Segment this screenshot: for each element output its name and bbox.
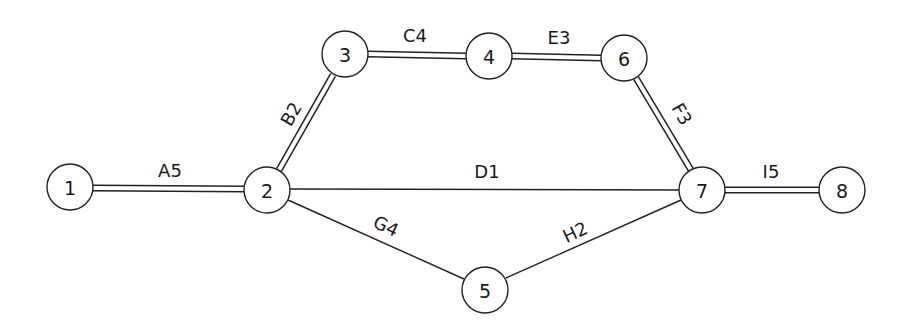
node-1: 1 [47,164,93,210]
edge-label-c: C4 [403,25,427,46]
edge-a [93,188,244,189]
edge-label-a: A5 [158,160,182,181]
node-7: 7 [679,167,725,213]
node-label-5: 5 [479,280,491,302]
node-6: 6 [601,35,647,81]
node-label-6: 6 [618,48,630,70]
edge-c [368,54,466,56]
node-label-4: 4 [483,46,495,68]
edge-label-f: F3 [667,99,696,128]
node-4: 4 [466,33,512,79]
node-2: 2 [244,167,290,213]
node-8: 8 [819,167,865,213]
network-diagram: A5 B2 C4 E3 F3 D1 G4 H2 I5 1 2 3 4 5 6 7… [0,0,909,327]
edge-label-g: G4 [370,211,402,241]
node-label-1: 1 [64,177,76,199]
edge-e [512,56,601,58]
node-label-7: 7 [696,180,708,202]
edge-label-i: I5 [763,161,780,182]
node-label-8: 8 [836,180,848,202]
edge-g [288,200,464,279]
node-5: 5 [462,267,508,313]
node-3: 3 [322,31,368,77]
node-label-3: 3 [339,44,351,66]
node-label-2: 2 [261,180,273,202]
edge-label-e: E3 [548,27,571,48]
edge-label-d: D1 [474,161,499,182]
edge-h [506,200,681,278]
edge-d [290,189,679,190]
